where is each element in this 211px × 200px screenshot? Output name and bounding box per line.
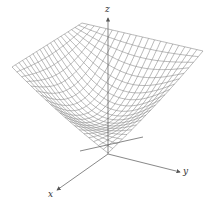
mesh-line: [40, 49, 146, 123]
surface-plot: z y x: [0, 0, 211, 200]
mesh-line: [12, 67, 108, 153]
surface-mesh: [12, 23, 203, 153]
mesh-line: [22, 26, 95, 77]
mesh-line: [79, 25, 199, 57]
y-axis-label: y: [183, 166, 188, 176]
x-axis-label: x: [48, 189, 53, 199]
mesh-line: [33, 54, 137, 129]
mesh-line: [31, 29, 106, 87]
mesh-line: [94, 47, 185, 142]
y-axis: [108, 154, 180, 172]
mesh-line: [82, 23, 203, 51]
wireframe-surface: [0, 0, 211, 200]
mesh-line: [68, 32, 184, 78]
back-axis-line: [80, 137, 143, 151]
x-axis: [57, 154, 108, 190]
z-axis-label: z: [105, 4, 110, 14]
mesh-line: [17, 24, 88, 72]
